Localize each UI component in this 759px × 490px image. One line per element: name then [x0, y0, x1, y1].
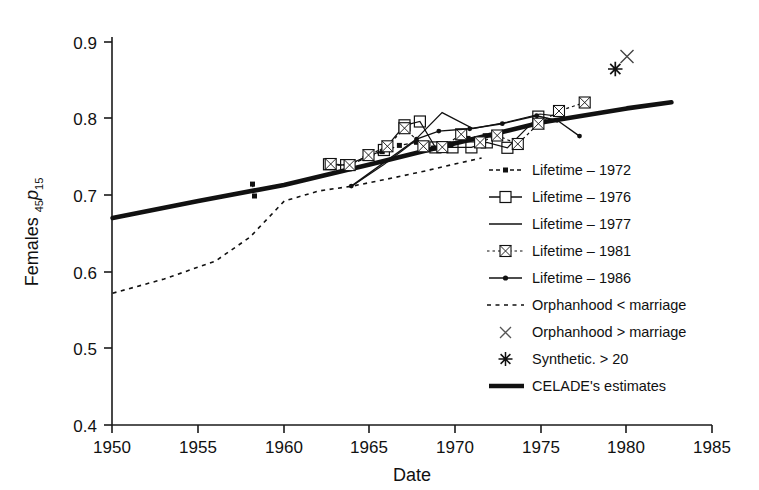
marker-filled-dot: [577, 134, 582, 139]
legend-label-lifetime-1977: Lifetime – 1977: [532, 216, 631, 232]
x-tick-label-1975: 1975: [522, 438, 560, 457]
x-tick-label-1965: 1965: [350, 438, 388, 457]
x-tick-label-1950: 1950: [93, 438, 131, 457]
legend-label-lifetime-1972: Lifetime – 1972: [532, 162, 631, 178]
marker-small-square: [252, 194, 257, 199]
marker-small-square: [397, 143, 402, 148]
marker-filled-dot: [349, 184, 354, 189]
legend-label-lifetime-1981: Lifetime – 1981: [532, 243, 631, 259]
x-axis-title: Date: [393, 465, 431, 485]
y-axis-title-prefix: Females: [22, 212, 42, 286]
y-tick-label-0.6: 0.6: [73, 264, 97, 283]
legend-item-lifetime-1976[interactable]: Lifetime – 1976: [489, 189, 631, 205]
legend-swatch-synthetic-gt-20: [499, 352, 513, 366]
chart-figure: 0.9 0.8 0.7 0.6 0.5 0.4 1950 1955 1960 1…: [0, 0, 759, 490]
marker-filled-dot: [500, 121, 505, 126]
marker-filled-dot: [467, 126, 472, 131]
y-tick-label-0.5: 0.5: [73, 340, 97, 359]
x-tick-label-1960: 1960: [265, 438, 303, 457]
marker-filled-dot: [414, 137, 419, 142]
marker-small-square: [250, 182, 255, 187]
x-tick-label-1985: 1985: [693, 438, 731, 457]
y-tick-label-0.4: 0.4: [73, 417, 97, 436]
marker-filled-dot: [534, 113, 539, 118]
chart-svg: 0.9 0.8 0.7 0.6 0.5 0.4 1950 1955 1960 1…: [0, 0, 759, 490]
legend-item-lifetime-1981[interactable]: Lifetime – 1981: [487, 243, 631, 259]
y-axis-title: Females 45p15: [22, 178, 45, 287]
x-tick-label-1970: 1970: [436, 438, 474, 457]
x-tick-label-1955: 1955: [179, 438, 217, 457]
marker-filled-dot: [436, 129, 441, 134]
legend-label-orphanhood-gt-marriage: Orphanhood > marriage: [532, 324, 686, 340]
legend-label-synthetic-gt-20: Synthetic. > 20: [532, 351, 628, 367]
legend-label-orphanhood-lt-marriage: Orphanhood < marriage: [532, 297, 686, 313]
y-tick-label-0.8: 0.8: [73, 110, 97, 129]
chart-background: [0, 0, 759, 490]
legend-label-celade-estimates: CELADE's estimates: [532, 378, 666, 394]
svg-text:Females 45p15: Females 45p15: [22, 178, 45, 287]
y-tick-label-0.7: 0.7: [73, 187, 97, 206]
y-axis-title-sub-right: 15: [33, 178, 45, 190]
y-axis-title-symbol: p: [22, 190, 42, 201]
legend-label-lifetime-1976: Lifetime – 1976: [532, 189, 631, 205]
legend-label-lifetime-1986: Lifetime – 1986: [532, 270, 631, 286]
y-tick-label-0.9: 0.9: [73, 34, 97, 53]
x-tick-label-1980: 1980: [607, 438, 645, 457]
y-axis-title-sub-left: 45: [33, 200, 45, 212]
marker-filled-dot: [555, 118, 560, 123]
